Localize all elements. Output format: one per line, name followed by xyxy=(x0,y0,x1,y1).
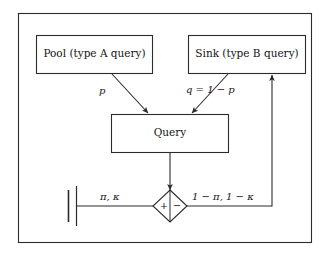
junction-plus-sign: + xyxy=(158,201,170,211)
edge-label-pi-kappa: π, κ xyxy=(100,192,120,202)
edge-label-p: p xyxy=(99,86,105,96)
edge-label-q: q = 1 − p xyxy=(186,85,235,95)
diagram-canvas: Pool (type A query) Sink (type B query) … xyxy=(0,0,331,254)
edge-label-one-minus-pi-kappa: 1 − π, 1 − κ xyxy=(192,192,254,202)
sink-box-label: Sink (type B query) xyxy=(188,48,306,59)
junction-minus-sign: − xyxy=(171,201,183,211)
edge-pool-to-query xyxy=(112,74,148,113)
query-box-label: Query xyxy=(111,127,229,138)
pool-box-label: Pool (type A query) xyxy=(36,48,153,59)
